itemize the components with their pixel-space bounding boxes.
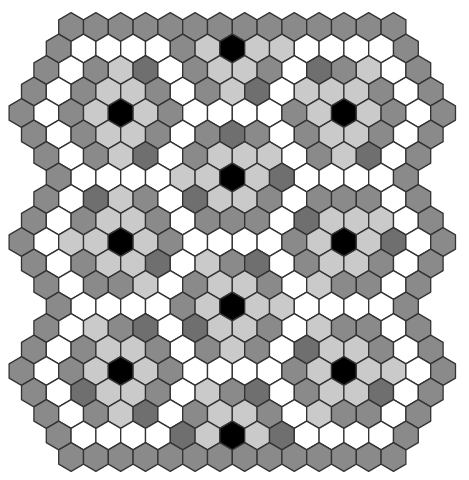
- hex-cell-mid-gray: [59, 443, 84, 472]
- hex-cell-mid-gray: [257, 443, 282, 472]
- hex-cell-mid-gray: [133, 443, 158, 472]
- hex-cell-mid-gray: [108, 443, 133, 472]
- hex-cell-mid-gray: [282, 443, 307, 472]
- hex-cell-mid-gray: [158, 443, 183, 472]
- hex-cell-mid-gray: [307, 443, 332, 472]
- hex-cell-mid-gray: [84, 443, 109, 472]
- hex-cell-mid-gray: [232, 443, 257, 472]
- hex-cell-mid-gray: [381, 443, 406, 472]
- hex-cell-mid-gray: [332, 443, 357, 472]
- hex-cell-mid-gray: [356, 443, 381, 472]
- hex-board: [0, 0, 469, 480]
- hex-cell-mid-gray: [183, 443, 208, 472]
- hex-cell-mid-gray: [208, 443, 233, 472]
